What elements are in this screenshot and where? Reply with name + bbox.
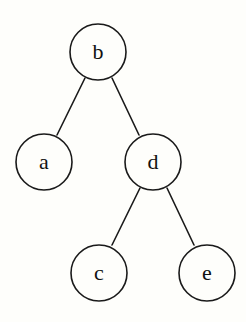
node-e-label: e	[202, 260, 212, 285]
node-d-label: d	[148, 149, 159, 174]
tree-diagram: b a d c e	[0, 0, 246, 322]
node-c: c	[71, 245, 127, 301]
tree-nodes: b a d c e	[16, 24, 235, 301]
edge-b-a	[57, 78, 85, 135]
node-a: a	[16, 134, 72, 190]
node-b-label: b	[93, 39, 104, 64]
edge-d-c	[112, 188, 140, 245]
node-a-label: a	[39, 149, 49, 174]
node-e: e	[179, 245, 235, 301]
edge-b-d	[112, 78, 139, 135]
node-d: d	[125, 134, 181, 190]
node-b: b	[70, 24, 126, 80]
edge-d-e	[167, 188, 194, 245]
node-c-label: c	[94, 260, 104, 285]
